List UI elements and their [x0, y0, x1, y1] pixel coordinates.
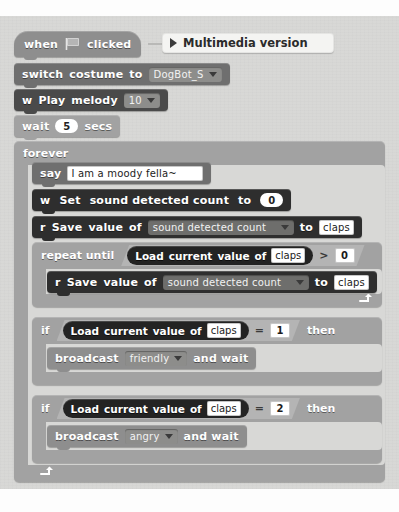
reporter-key-input[interactable]: claps — [271, 248, 305, 263]
if-label: if — [41, 324, 50, 337]
ext-prefix-w: w — [40, 194, 50, 207]
repeat-until-condition[interactable]: Load current value of claps > 0 — [121, 245, 364, 266]
reporter-load-current-value[interactable]: Load current value of claps — [63, 399, 249, 418]
chevron-down-icon — [296, 280, 304, 285]
load-label: Load — [71, 403, 100, 415]
costume-dropdown-value: DogBot_S — [154, 69, 204, 80]
chevron-down-icon — [174, 356, 182, 361]
comparison-operand-input[interactable]: 0 — [335, 248, 355, 263]
equals-operator: = — [255, 402, 264, 415]
value-label: value — [103, 276, 138, 289]
reporter-load-current-value[interactable]: Load current value of claps — [63, 321, 249, 340]
save-label: Save — [52, 221, 83, 234]
comment-label: Multimedia version — [183, 36, 308, 50]
clicked-label: clicked — [87, 38, 131, 51]
if-label: if — [41, 402, 50, 415]
greater-than-operator: > — [319, 249, 328, 262]
to-label: to — [129, 68, 142, 81]
chevron-down-icon — [281, 225, 289, 230]
secs-label: secs — [84, 120, 112, 133]
say-label: say — [40, 167, 61, 180]
if-2-header: if Load current value of claps = 2 then — [32, 395, 382, 422]
block-say[interactable]: say I am a moody fella~ — [32, 162, 211, 184]
triangle-right-icon[interactable] — [170, 38, 177, 48]
save-source-dropdown-value: sound detected count — [168, 277, 281, 288]
say-text-input[interactable]: I am a moody fella~ — [67, 166, 203, 181]
block-broadcast-friendly[interactable]: broadcast friendly and wait — [47, 347, 256, 369]
ext-prefix-r: r — [40, 221, 46, 234]
broadcast-message-dropdown[interactable]: angry — [125, 429, 178, 444]
reporter-key-input[interactable]: claps — [207, 323, 241, 338]
when-label: when — [24, 38, 58, 51]
block-play-melody[interactable]: w Play melody 10 — [14, 89, 168, 111]
of-label: of — [255, 250, 267, 262]
screenshot-root: when clicked Multimedia version switch c… — [0, 0, 399, 512]
ext-prefix-w: w — [22, 94, 32, 107]
melody-label: melody — [71, 94, 118, 107]
of-label: of — [129, 221, 142, 234]
value-label: value — [153, 403, 185, 415]
save-target-input[interactable]: claps — [334, 275, 369, 290]
green-flag-icon — [64, 37, 81, 51]
current-label: current — [169, 250, 213, 262]
load-label: Load — [71, 325, 100, 337]
of-label: of — [144, 276, 157, 289]
ext-prefix-r: r — [55, 276, 61, 289]
equals-operator: = — [255, 324, 264, 337]
play-label: Play — [38, 94, 65, 107]
block-set-sound-detected-count[interactable]: w Set sound detected count to 0 — [32, 189, 291, 211]
melody-dropdown-value: 10 — [129, 95, 142, 106]
forever-label: forever — [23, 147, 68, 160]
repeat-until-label: repeat until — [41, 249, 114, 262]
value-label: value — [153, 325, 185, 337]
block-when-flag-clicked[interactable]: when clicked — [14, 31, 141, 57]
wait-label: wait — [22, 120, 49, 133]
chevron-down-icon — [209, 72, 217, 77]
current-label: current — [104, 403, 148, 415]
broadcast-message-value: angry — [130, 431, 160, 442]
if-2-condition[interactable]: Load current value of claps = 2 — [57, 398, 300, 419]
script-comment[interactable]: Multimedia version — [162, 33, 334, 53]
repeat-until-header: repeat until Load current value of claps… — [32, 242, 382, 269]
of-label: of — [190, 403, 202, 415]
to-label: to — [315, 276, 328, 289]
comparison-operand-input[interactable]: 2 — [270, 401, 290, 416]
block-broadcast-angry[interactable]: broadcast angry and wait — [47, 425, 247, 447]
save-target-input[interactable]: claps — [319, 220, 354, 235]
save-source-dropdown[interactable]: sound detected count — [163, 275, 309, 290]
block-switch-costume[interactable]: switch costume to DogBot_S — [14, 63, 230, 85]
chevron-down-icon — [165, 434, 173, 439]
of-label: of — [190, 325, 202, 337]
value-label: value — [88, 221, 123, 234]
comparison-operand-input[interactable]: 1 — [270, 323, 290, 338]
chevron-down-icon — [147, 98, 155, 103]
block-wait-secs[interactable]: wait 5 secs — [14, 115, 120, 137]
switch-label: switch — [22, 68, 63, 81]
then-label: then — [307, 402, 335, 415]
broadcast-label: broadcast — [55, 430, 119, 443]
block-save-value-of-1[interactable]: r Save value of sound detected count to … — [32, 216, 362, 238]
set-count-input[interactable]: 0 — [260, 193, 283, 207]
comment-connector — [148, 43, 162, 45]
costume-label: costume — [69, 68, 123, 81]
block-save-value-of-2[interactable]: r Save value of sound detected count to … — [47, 271, 377, 293]
if-1-header: if Load current value of claps = 1 then — [32, 317, 382, 344]
if-1-condition[interactable]: Load current value of claps = 1 — [57, 320, 300, 341]
broadcast-label: broadcast — [55, 352, 119, 365]
and-wait-label: and wait — [193, 352, 248, 365]
current-label: current — [104, 325, 148, 337]
loop-arrow-icon — [40, 465, 54, 477]
and-wait-label: and wait — [184, 430, 239, 443]
costume-dropdown[interactable]: DogBot_S — [149, 67, 222, 82]
sound-detected-count-label: sound detected count — [90, 194, 229, 207]
wait-seconds-input[interactable]: 5 — [55, 119, 78, 133]
broadcast-message-value: friendly — [130, 353, 170, 364]
to-label: to — [300, 221, 313, 234]
reporter-load-current-value[interactable]: Load current value of claps — [127, 246, 313, 265]
reporter-key-input[interactable]: claps — [207, 401, 241, 416]
set-label: Set — [59, 194, 80, 207]
save-source-dropdown[interactable]: sound detected count — [148, 220, 294, 235]
melody-dropdown[interactable]: 10 — [124, 93, 160, 108]
broadcast-message-dropdown[interactable]: friendly — [125, 351, 188, 366]
value-label: value — [217, 250, 249, 262]
